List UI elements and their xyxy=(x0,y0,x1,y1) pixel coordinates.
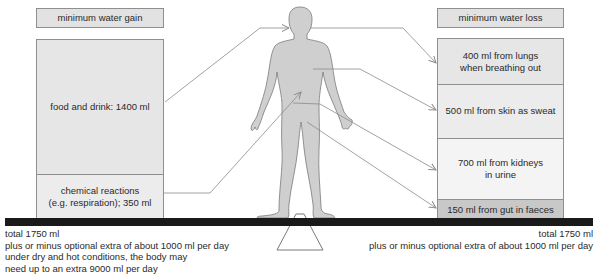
human-body-icon xyxy=(251,7,352,218)
gain-note-1: plus or minus optional extra of about 10… xyxy=(5,240,229,252)
gain-note-3: need up to an extra 9000 ml per day xyxy=(5,263,229,274)
balance-bar xyxy=(5,218,593,226)
loss-footer: total 1750 ml plus or minus optional ext… xyxy=(369,228,593,251)
gain-footer: total 1750 ml plus or minus optional ext… xyxy=(5,228,229,274)
gain-total: total 1750 ml xyxy=(5,228,229,240)
arrow-chemical-to-body xyxy=(164,92,301,193)
gain-note-2: under dry and hot conditions, the body m… xyxy=(5,251,229,263)
arrow-gut-to-box xyxy=(307,122,436,208)
loss-note-1: plus or minus optional extra of about 10… xyxy=(369,240,593,252)
loss-total: total 1750 ml xyxy=(369,228,593,240)
